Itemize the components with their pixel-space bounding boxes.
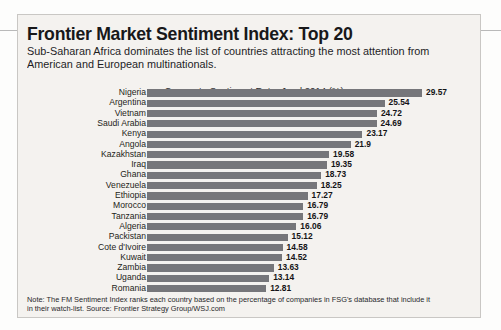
subtitle: Sub-Saharan Africa dominates the list of…: [27, 45, 460, 70]
category-label: Packistan: [109, 232, 146, 241]
bar: [147, 131, 362, 138]
bar-row: Ethiopia17.27: [18, 191, 482, 201]
bar: [147, 275, 269, 282]
bar: [147, 213, 303, 220]
bar: [147, 151, 329, 158]
bar-row: Argentina25.54: [18, 98, 482, 108]
bar: [147, 223, 296, 230]
bar-row: Uganda13.14: [18, 273, 482, 283]
bar: [147, 234, 288, 241]
bar-chart: Nigeria29.57Argentina25.54Vietnam24.72Sa…: [18, 88, 482, 310]
bar: [147, 264, 274, 271]
bar-row: Algeria16.06: [18, 222, 482, 232]
bar-row: Morocco16.79: [18, 201, 482, 211]
category-label: Romania: [112, 284, 146, 293]
bar-row: Angola21.9: [18, 140, 482, 150]
bar-row: Nigeria29.57: [18, 88, 482, 98]
category-label: Uganda: [116, 273, 146, 282]
bar: [147, 110, 377, 117]
value-label: 13.63: [278, 263, 299, 272]
value-label: 29.57: [426, 88, 447, 97]
bar-row: Kuwait14.52: [18, 253, 482, 263]
bar-row: Cote d'Ivoire14.58: [18, 243, 482, 253]
bar: [147, 161, 327, 168]
bar-row: Ghana18.73: [18, 170, 482, 180]
footnote-line-2: in their watch-list. Source: Frontier St…: [27, 305, 475, 314]
value-label: 16.79: [307, 212, 328, 221]
value-label: 16.79: [307, 201, 328, 210]
footnote-line-1: Note: The FM Sentiment Index ranks each …: [27, 295, 430, 304]
category-label: Ghana: [120, 170, 146, 179]
category-label: Vietnam: [115, 109, 146, 118]
category-label: Algeria: [119, 222, 146, 231]
category-label: Kenya: [122, 129, 146, 138]
value-label: 24.72: [381, 109, 402, 118]
bar: [147, 172, 321, 179]
bar-row: Iraq19.35: [18, 160, 482, 170]
chart-footnote: Note: The FM Sentiment Index ranks each …: [27, 296, 475, 314]
value-label: 13.14: [273, 273, 294, 282]
bar: [147, 182, 317, 189]
category-label: Venezuela: [106, 181, 146, 190]
value-label: 25.54: [389, 98, 410, 107]
page-title: Frontier Market Sentiment Index: Top 20: [27, 23, 353, 45]
bar-row: Vietnam24.72: [18, 109, 482, 119]
bar-row: Venezuela18.25: [18, 181, 482, 191]
infographic-panel: Frontier Market Sentiment Index: Top 20 …: [17, 14, 481, 318]
category-label: Zambia: [117, 263, 146, 272]
bar-row: Tanzania16.79: [18, 212, 482, 222]
bar: [147, 203, 303, 210]
category-label: Nigeria: [119, 88, 146, 97]
bar: [147, 285, 266, 292]
value-label: 21.9: [355, 140, 371, 149]
bar: [147, 89, 422, 96]
category-label: Kuwait: [120, 253, 146, 262]
value-label: 18.25: [321, 181, 342, 190]
bar-row: Zambia13.63: [18, 263, 482, 273]
value-label: 12.81: [270, 284, 291, 293]
category-label: Angola: [119, 140, 146, 149]
category-label: Morocco: [113, 201, 146, 210]
bar: [147, 192, 308, 199]
bar-row: Kenya23.17: [18, 129, 482, 139]
bar: [147, 141, 351, 148]
value-label: 17.27: [312, 191, 333, 200]
bar: [147, 244, 283, 251]
category-label: Ethiopia: [115, 191, 146, 200]
value-label: 23.17: [366, 129, 387, 138]
bar-row: Saudi Arabia24.69: [18, 119, 482, 129]
bar: [147, 120, 377, 127]
value-label: 24.69: [381, 119, 402, 128]
value-label: 14.58: [287, 243, 308, 252]
value-label: 18.73: [325, 170, 346, 179]
value-label: 14.52: [286, 253, 307, 262]
value-label: 15.12: [292, 232, 313, 241]
bar: [147, 254, 282, 261]
category-label: Saudi Arabia: [97, 119, 146, 128]
category-label: Iraq: [131, 160, 146, 169]
category-label: Cote d'Ivoire: [98, 243, 146, 252]
bar-row: Packistan15.12: [18, 232, 482, 242]
value-label: 19.58: [333, 150, 354, 159]
category-label: Argentina: [109, 98, 146, 107]
bar-row: Kazakhstan19.58: [18, 150, 482, 160]
category-label: Kazakhstan: [101, 150, 146, 159]
bar-row: Romania12.81: [18, 284, 482, 294]
value-label: 16.06: [300, 222, 321, 231]
bar: [147, 100, 385, 107]
category-label: Tanzania: [112, 212, 146, 221]
value-label: 19.35: [331, 160, 352, 169]
